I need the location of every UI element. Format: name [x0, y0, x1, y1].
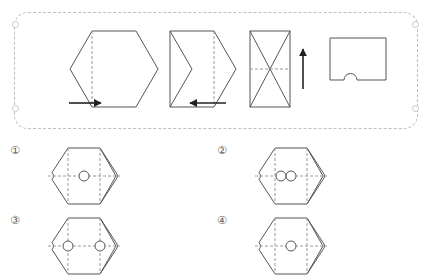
puzzle-page: ① ② ③ ④: [0, 0, 435, 278]
option-3-hole-1: [63, 241, 73, 251]
option-1-hole-1: [79, 171, 89, 181]
option-2-hole-1: [276, 171, 286, 181]
option-2-hole-2: [286, 171, 296, 181]
option-4-figure[interactable]: [255, 218, 327, 274]
option-3-marker[interactable]: ③: [10, 215, 20, 226]
option-1-figure[interactable]: [48, 148, 120, 204]
option-3-figure[interactable]: [48, 218, 120, 274]
step-2-chevron: [170, 31, 236, 107]
option-1-marker[interactable]: ①: [10, 145, 20, 156]
punch-notch-shape: [330, 38, 386, 80]
option-4-marker[interactable]: ④: [217, 215, 227, 226]
step-1-hexagon: [70, 31, 158, 107]
option-3-hole-2: [95, 241, 105, 251]
option-4-hole-1: [286, 241, 296, 251]
step-4-punched-square: [330, 38, 386, 80]
option-2-marker[interactable]: ②: [217, 145, 227, 156]
option-2-figure[interactable]: [255, 148, 327, 204]
puzzle-drawing: [0, 0, 435, 278]
step-3-rectangle: [250, 31, 290, 107]
